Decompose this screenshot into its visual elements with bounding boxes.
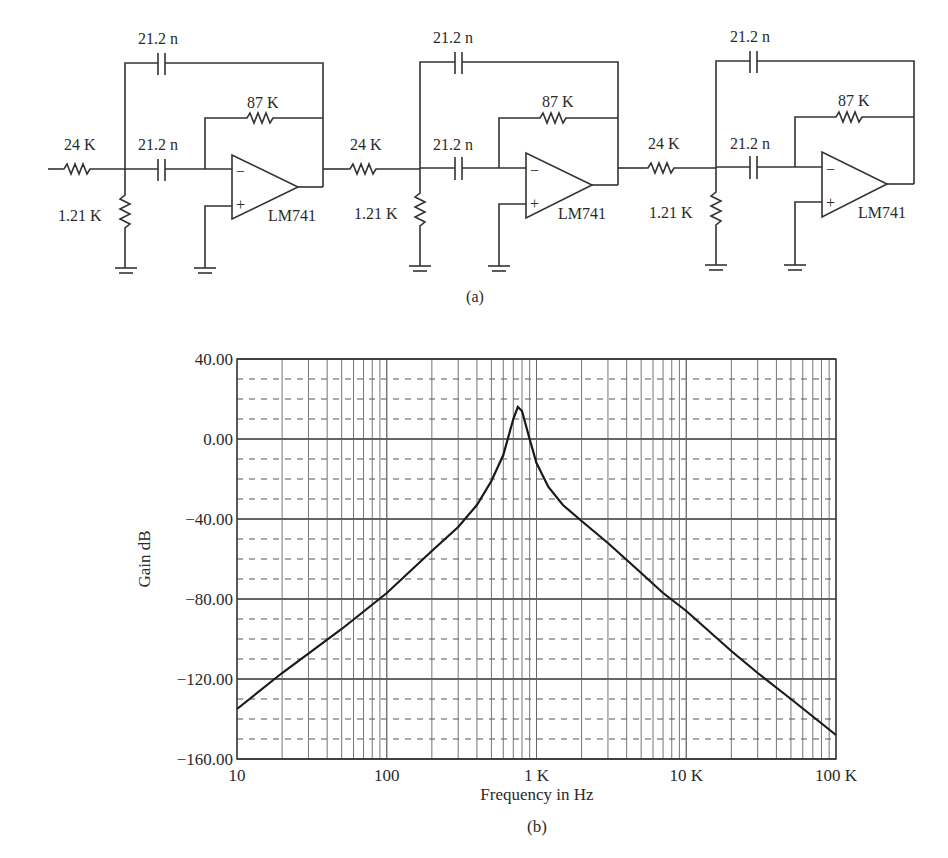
y-axis-label: Gain dB bbox=[135, 530, 154, 587]
ground-icon bbox=[784, 265, 806, 270]
ground-resistor-label: 1.21 K bbox=[354, 205, 398, 222]
ground-resistor-icon bbox=[711, 167, 721, 265]
chart-grid bbox=[237, 359, 836, 759]
x-axis-ticks: 101001 K10 K100 K bbox=[229, 766, 858, 785]
opamp-plus-label: + bbox=[236, 196, 245, 213]
opamp-label: LM741 bbox=[268, 207, 316, 224]
opamp-minus-label: − bbox=[236, 163, 245, 180]
y-tick-label: 0.00 bbox=[203, 430, 233, 449]
input-resistor-label: 24 K bbox=[64, 136, 96, 153]
x-tick-label: 10 bbox=[229, 766, 246, 785]
x-tick-label: 100 bbox=[374, 766, 400, 785]
ground-icon bbox=[115, 268, 137, 273]
noninverting-wire bbox=[499, 204, 526, 266]
x-tick-label: 100 K bbox=[815, 766, 858, 785]
opamp-label: LM741 bbox=[558, 205, 606, 222]
ground-icon bbox=[705, 265, 727, 270]
input-resistor-icon bbox=[62, 164, 125, 174]
x-tick-label: 10 K bbox=[669, 766, 703, 785]
feedback-resistor-icon bbox=[499, 113, 618, 168]
opamp-minus-label: − bbox=[826, 161, 835, 178]
ground-resistor-label: 1.21 K bbox=[649, 204, 693, 221]
filter-stage-1: 24 K 21.2 n 21.2 n 87 K 1.21 K bbox=[58, 30, 323, 273]
input-resistor-label: 24 K bbox=[350, 136, 382, 153]
x-tick-label: 1 K bbox=[524, 766, 550, 785]
feedback-resistor-icon bbox=[795, 112, 914, 167]
y-tick-label: −160.00 bbox=[177, 750, 233, 769]
y-axis-ticks: 40.000.00−40.00−80.00−120.00−160.00 bbox=[177, 350, 233, 769]
gain-chart: 40.000.00−40.00−80.00−120.00−160.00 1010… bbox=[135, 350, 858, 836]
y-tick-label: −120.00 bbox=[177, 670, 233, 689]
feedback-resistor-label: 87 K bbox=[542, 93, 574, 110]
y-tick-label: 40.00 bbox=[195, 350, 233, 369]
series-capacitor-label: 21.2 n bbox=[433, 136, 473, 153]
opamp-minus-label: − bbox=[530, 162, 539, 179]
opamp-label: LM741 bbox=[858, 204, 906, 221]
input-resistor-label: 24 K bbox=[648, 135, 680, 152]
ground-resistor-icon bbox=[120, 169, 130, 268]
panel-a-caption: (a) bbox=[466, 288, 484, 306]
x-axis-label: Frequency in Hz bbox=[480, 785, 594, 804]
series-capacitor-label: 21.2 n bbox=[138, 136, 178, 153]
filter-stage-2: 24 K 21.2 n 21.2 n 87 K 1.21 K − + LM741 bbox=[348, 29, 618, 271]
feedback-capacitor-label: 21.2 n bbox=[433, 29, 473, 46]
ground-icon bbox=[488, 266, 510, 271]
ground-icon bbox=[409, 266, 431, 271]
panel-b-caption: (b) bbox=[527, 817, 547, 836]
feedback-capacitor-label: 21.2 n bbox=[730, 28, 770, 45]
feedback-resistor-icon bbox=[205, 113, 323, 169]
node-wire bbox=[125, 63, 158, 169]
y-tick-label: −40.00 bbox=[185, 510, 233, 529]
noninverting-wire bbox=[205, 206, 232, 268]
noninverting-wire bbox=[795, 202, 822, 265]
feedback-capacitor-label: 21.2 n bbox=[138, 30, 178, 47]
y-tick-label: −80.00 bbox=[185, 590, 233, 609]
feedback-wire bbox=[462, 62, 618, 185]
ground-resistor-label: 1.21 K bbox=[58, 207, 102, 224]
series-capacitor-label: 21.2 n bbox=[730, 135, 770, 152]
feedback-resistor-label: 87 K bbox=[838, 92, 870, 109]
input-resistor-icon bbox=[348, 164, 420, 174]
filter-stage-3: 24 K 21.2 n 21.2 n 87 K 1.21 K − + LM741 bbox=[645, 28, 914, 270]
figure: 24 K 21.2 n 21.2 n 87 K 1.21 K bbox=[0, 0, 948, 858]
feedback-wire bbox=[757, 61, 914, 184]
feedback-resistor-label: 87 K bbox=[247, 94, 279, 111]
ground-icon bbox=[194, 268, 216, 273]
circuit-schematic: 24 K 21.2 n 21.2 n 87 K 1.21 K bbox=[48, 28, 914, 306]
ground-resistor-icon bbox=[415, 168, 425, 266]
opamp-plus-label: + bbox=[826, 194, 835, 211]
opamp-plus-label: + bbox=[530, 195, 539, 212]
input-resistor-icon bbox=[645, 163, 716, 173]
